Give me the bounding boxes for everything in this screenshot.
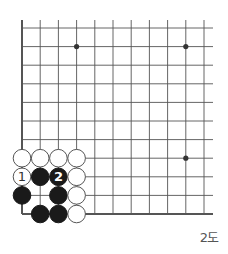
diagram-caption: 2도 <box>200 227 218 246</box>
move-number-label: 2 <box>54 169 63 184</box>
star-point <box>183 44 188 49</box>
board-grid <box>22 20 213 214</box>
white-stone <box>31 149 49 167</box>
black-stone <box>13 187 31 205</box>
white-stone <box>13 149 31 167</box>
white-stone: 1 <box>13 168 31 186</box>
star-point <box>74 44 79 49</box>
go-board: 12 <box>0 0 228 254</box>
white-stone <box>68 187 86 205</box>
black-stone <box>31 168 49 186</box>
white-stone <box>68 168 86 186</box>
white-stone <box>68 205 86 223</box>
star-point <box>183 156 188 161</box>
stones: 12 <box>13 149 85 222</box>
black-stone <box>31 205 49 223</box>
white-stone <box>68 149 86 167</box>
black-stone <box>50 187 68 205</box>
black-stone <box>50 205 68 223</box>
white-stone <box>50 149 68 167</box>
move-number-label: 1 <box>18 169 26 184</box>
black-stone: 2 <box>50 168 68 186</box>
